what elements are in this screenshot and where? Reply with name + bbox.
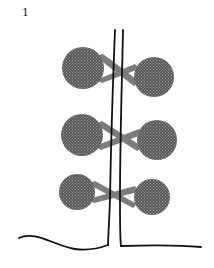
bulb-right-1: [134, 57, 174, 97]
bulb-left-3: [59, 174, 95, 210]
stem-diagram: [0, 0, 214, 268]
bulb-left-1: [62, 47, 104, 89]
bulb-left-2: [61, 114, 103, 156]
bulb-right-3: [134, 179, 170, 215]
bulb-right-2: [137, 120, 177, 160]
ground-line: [19, 236, 201, 250]
band-pair-3: [88, 181, 138, 208]
